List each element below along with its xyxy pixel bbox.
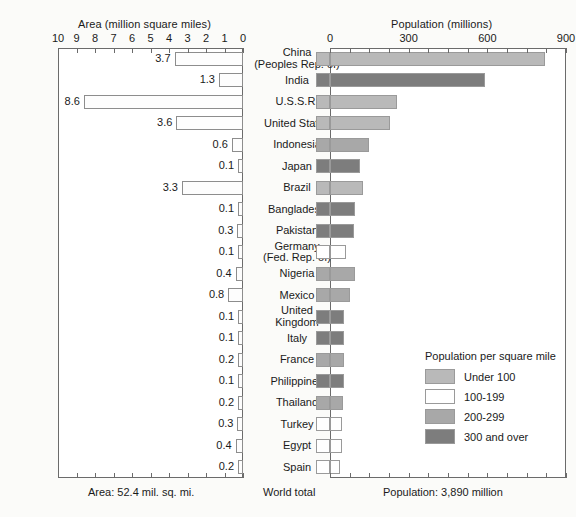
population-bar: [330, 417, 342, 431]
legend-label: Under 100: [464, 371, 515, 383]
area-value-label: 0.1: [202, 374, 234, 386]
area-value-label: 1.3: [183, 73, 215, 85]
pop-bottom-tick: [428, 473, 429, 478]
area-top-tick: [151, 48, 152, 53]
area-bar: [236, 267, 243, 281]
area-top-tick: [225, 48, 226, 53]
area-bar: [238, 159, 243, 173]
pop-bottom-tick: [330, 473, 331, 478]
area-bottom-tick: [114, 473, 115, 478]
area-value-label: 0.4: [200, 439, 232, 451]
area-bar: [238, 310, 243, 324]
area-top-tick: [77, 48, 78, 53]
pop-bottom-tick: [369, 473, 370, 478]
area-top-tick: [95, 48, 96, 53]
pop-top-tick: [448, 48, 449, 53]
pop-bottom-tick: [350, 473, 351, 478]
area-bar: [219, 73, 243, 87]
legend-item: Under 100: [425, 368, 556, 385]
legend-rows: Under 100100-199200-299300 and over: [425, 368, 556, 445]
pop-bottom-tick: [409, 473, 410, 478]
population-bar: [330, 310, 344, 324]
density-swatch: [316, 159, 330, 173]
area-value-label: 0.8: [192, 288, 224, 300]
density-swatch: [316, 73, 330, 87]
population-bar: [330, 95, 397, 109]
population-bar: [330, 52, 545, 66]
population-bar: [330, 331, 344, 345]
pop-top-tick: [527, 48, 528, 53]
population-bar: [330, 374, 344, 388]
area-value-label: 0.2: [202, 460, 234, 472]
area-bar: [238, 202, 243, 216]
area-bar: [232, 138, 243, 152]
legend-swatch: [425, 429, 455, 444]
area-value-label: 0.1: [202, 310, 234, 322]
area-top-tick: [114, 48, 115, 53]
area-bar: [238, 374, 243, 388]
area-value-label: 0.2: [202, 353, 234, 365]
population-bar: [330, 138, 369, 152]
pop-bottom-tick: [507, 473, 508, 478]
pop-bottom-tick: [448, 473, 449, 478]
area-top-tick: [206, 48, 207, 53]
pop-top-tick: [546, 48, 547, 53]
population-bar: [330, 202, 355, 216]
pop-bottom-tick: [468, 473, 469, 478]
legend-label: 200-299: [464, 411, 504, 423]
area-top-tick: [188, 48, 189, 53]
area-bar: [238, 353, 243, 367]
area-value-label: 0.4: [200, 267, 232, 279]
area-bottom-tick: [225, 473, 226, 478]
density-swatch: [316, 288, 330, 302]
area-bottom-tick: [169, 473, 170, 478]
world-total-footer: World total: [263, 486, 315, 498]
area-bar: [237, 417, 243, 431]
pop-top-tick: [487, 48, 488, 53]
area-value-label: 0.3: [201, 224, 233, 236]
pop-bottom-tick: [546, 473, 547, 478]
density-swatch: [316, 460, 330, 474]
area-value-label: 0.1: [202, 202, 234, 214]
area-value-label: 3.3: [146, 181, 178, 193]
population-bar: [330, 159, 360, 173]
pop-top-tick: [566, 48, 567, 53]
population-bar: [330, 181, 363, 195]
legend-label: 100-199: [464, 391, 504, 403]
area-bottom-tick: [206, 473, 207, 478]
pop-top-tick: [409, 48, 410, 53]
legend-swatch: [425, 409, 455, 424]
area-bar: [238, 331, 243, 345]
density-swatch: [316, 396, 330, 410]
density-swatch: [316, 116, 330, 130]
area-bar: [176, 116, 243, 130]
area-value-label: 0.3: [201, 417, 233, 429]
density-swatch: [316, 310, 330, 324]
area-total-footer: Area: 52.4 mil. sq. mi.: [88, 486, 194, 498]
area-value-label: 0.1: [202, 331, 234, 343]
area-value-label: 3.7: [139, 52, 171, 64]
legend-item: 300 and over: [425, 428, 556, 445]
area-bar: [175, 52, 243, 66]
legend-swatch: [425, 369, 455, 384]
area-value-label: 3.6: [140, 116, 172, 128]
pop-top-tick: [369, 48, 370, 53]
area-bar: [84, 95, 243, 109]
population-bar: [330, 288, 350, 302]
population-bar: [330, 267, 355, 281]
density-swatch: [316, 95, 330, 109]
legend-label: 300 and over: [464, 431, 528, 443]
density-swatch: [316, 439, 330, 453]
legend-item: 100-199: [425, 388, 556, 405]
density-swatch: [316, 374, 330, 388]
legend-swatch: [425, 389, 455, 404]
density-swatch: [316, 52, 330, 66]
area-bottom-tick: [77, 473, 78, 478]
population-bar: [330, 116, 390, 130]
density-swatch: [316, 331, 330, 345]
area-bar: [182, 181, 243, 195]
area-bar: [238, 396, 243, 410]
pop-bottom-tick: [566, 473, 567, 478]
pop-top-tick: [389, 48, 390, 53]
area-value-label: 0.1: [202, 159, 234, 171]
